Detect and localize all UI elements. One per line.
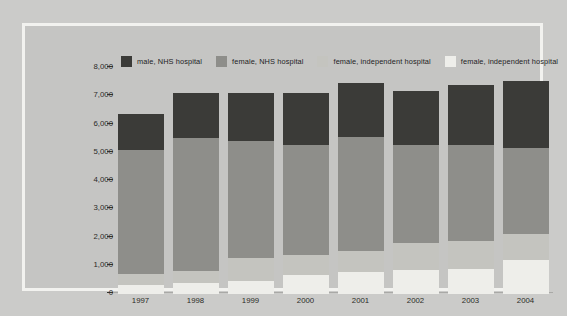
bar-segment-1998-lightest: [173, 283, 219, 294]
y-tick-label-3000: 3,000: [63, 203, 113, 212]
legend-label: female, independent hospital: [461, 57, 558, 66]
y-tick-label-1000: 1,000: [63, 259, 113, 268]
bar-segment-1997-dark: [118, 114, 164, 150]
bar-segment-2003-dark: [448, 85, 494, 145]
bar-segment-2003-light: [448, 241, 494, 270]
x-tick-label-2003: 2003: [443, 296, 498, 305]
stacked-bar-2000[interactable]: [283, 68, 329, 294]
bar-segment-1998-light: [173, 271, 219, 283]
stacked-bar-1997[interactable]: [118, 68, 164, 294]
x-tick-label-2001: 2001: [333, 296, 388, 305]
bar-segment-2004-dark: [503, 81, 549, 148]
stacked-bar-2002[interactable]: [393, 68, 439, 294]
bar-slot-2000: [278, 68, 333, 294]
y-tick-label-6000: 6,000: [63, 118, 113, 127]
legend-label: male, NHS hospital: [137, 57, 202, 66]
bar-segment-2001-lightest: [338, 272, 384, 294]
legend-label: female, independent hospital: [333, 57, 430, 66]
stacked-bar-2004[interactable]: [503, 68, 549, 294]
stacked-bar-1998[interactable]: [173, 68, 219, 294]
bar-segment-1998-mid: [173, 138, 219, 271]
bar-segment-2003-lightest: [448, 269, 494, 294]
bar-segment-2002-light: [393, 243, 439, 270]
stacked-bar-2003[interactable]: [448, 68, 494, 294]
bar-segment-2000-light: [283, 255, 329, 275]
bar-segment-2002-lightest: [393, 270, 439, 294]
stacked-bar-1999[interactable]: [228, 68, 274, 294]
bar-segment-2002-dark: [393, 91, 439, 146]
bar-slot-2001: [333, 68, 388, 294]
bar-segment-2000-mid: [283, 145, 329, 255]
bar-segment-1997-light: [118, 274, 164, 285]
bar-segment-1999-dark: [228, 93, 274, 141]
y-tick-label-0: 0: [63, 288, 113, 297]
x-tick-label-1997: 1997: [113, 296, 168, 305]
bar-segment-1998-dark: [173, 93, 219, 138]
bar-segment-1999-mid: [228, 141, 274, 259]
bar-slot-1997: [113, 68, 168, 294]
bar-segment-1997-lightest: [118, 285, 164, 294]
bar-segment-2003-mid: [448, 145, 494, 240]
x-tick-label-2000: 2000: [278, 296, 333, 305]
bar-segment-2001-mid: [338, 137, 384, 251]
bar-slot-1998: [168, 68, 223, 294]
x-axis: 19971998199920002001200220032004: [113, 296, 553, 305]
y-axis: 8,0007,0006,0005,0004,0003,0002,0001,000…: [25, 26, 113, 316]
stacked-bar-2001[interactable]: [338, 68, 384, 294]
y-tick-label-4000: 4,000: [63, 175, 113, 184]
y-tick-label-5000: 5,000: [63, 146, 113, 155]
y-tick-label-7000: 7,000: [63, 90, 113, 99]
bar-slot-1999: [223, 68, 278, 294]
bar-group: [113, 68, 553, 294]
x-tick-label-2002: 2002: [388, 296, 443, 305]
x-tick-label-1999: 1999: [223, 296, 278, 305]
bar-segment-2000-dark: [283, 93, 329, 146]
bar-segment-1999-light: [228, 258, 274, 281]
chart-screenshot: male, NHS hospitalfemale, NHS hospitalfe…: [0, 0, 567, 316]
bar-segment-2004-mid: [503, 148, 549, 234]
plot-area: [113, 66, 553, 294]
bar-segment-2004-light: [503, 234, 549, 261]
bar-segment-2004-lightest: [503, 260, 549, 294]
x-tick-label-2004: 2004: [498, 296, 553, 305]
y-tick-label-8000: 8,000: [63, 62, 113, 71]
chart-frame: male, NHS hospitalfemale, NHS hospitalfe…: [22, 23, 543, 291]
bar-segment-2001-dark: [338, 83, 384, 137]
bar-segment-1999-lightest: [228, 281, 274, 294]
legend-label: female, NHS hospital: [232, 57, 303, 66]
bar-segment-2001-light: [338, 251, 384, 272]
x-tick-label-1998: 1998: [168, 296, 223, 305]
bar-slot-2002: [388, 68, 443, 294]
bar-slot-2003: [443, 68, 498, 294]
y-tick-label-2000: 2,000: [63, 231, 113, 240]
bar-slot-2004: [498, 68, 553, 294]
bar-segment-2002-mid: [393, 145, 439, 243]
bar-segment-2000-lightest: [283, 275, 329, 294]
bar-segment-1997-mid: [118, 150, 164, 274]
